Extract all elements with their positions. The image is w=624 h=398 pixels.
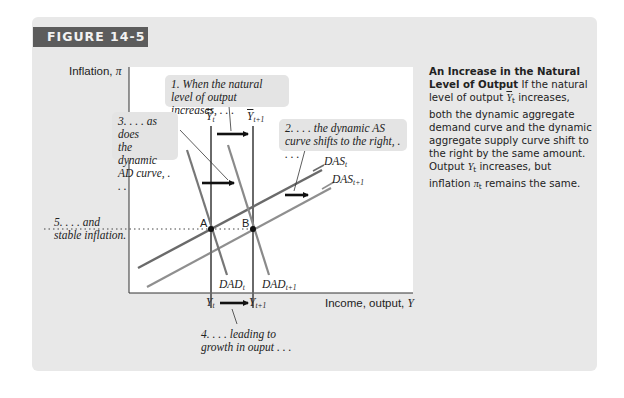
point-a-label: A [200,217,207,229]
callout-5: 5. . . . and stable inflation. [54,216,126,242]
callout-4-leader [232,309,237,324]
x-axis-label: Income, output, Y [325,297,414,309]
point-b [250,226,256,232]
point-a [208,226,214,232]
point-b-label: B [242,217,249,229]
dad-t1-label: DADt+1 [262,278,297,292]
das-t1-line [147,188,331,287]
callout-4: 4. . . . leading to growth in ouput . . … [201,328,291,354]
dad-t1-line [228,145,269,275]
x-tick-yt1: Yt+1 [249,296,266,310]
das-t1-label: DASt+1 [332,173,364,187]
x-tick-yt: Yt [206,296,215,310]
callout-3-leader [180,130,228,180]
y-axis-label: Inflation, π [69,65,121,77]
figure-caption: An Increase in the Natural Level of Outp… [429,65,594,193]
callout-3: 3. . . . as does the dynamic AD curve, .… [112,112,178,160]
chart-svg [0,0,624,398]
dad-t-line [187,150,227,275]
dad-t-label: DADt [219,278,245,292]
callout-2: 2. . . . the dynamic AS curve shifts to … [279,119,407,151]
callout-1: 1. When the natural level of output incr… [165,75,289,107]
